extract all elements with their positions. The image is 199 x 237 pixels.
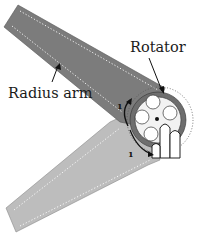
rotator-hole (135, 110, 149, 124)
rotator-label: Rotator (130, 40, 186, 55)
rotator-diagram (0, 0, 199, 237)
radius-arm-label: Radius arm (8, 86, 93, 101)
marker-bottom: 1 (128, 150, 134, 158)
rotator-hole (146, 95, 160, 109)
rotator-hole (144, 127, 158, 141)
pivot-dot (155, 117, 159, 121)
rotator-hole (163, 106, 177, 120)
marker-top: 1 (117, 102, 123, 110)
